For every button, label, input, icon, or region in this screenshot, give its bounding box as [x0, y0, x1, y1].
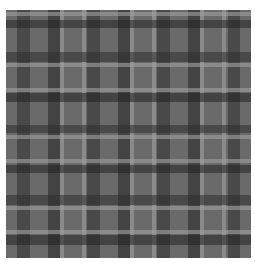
- vertical-stripe: [228, 10, 240, 258]
- horizontal-stripe: [6, 12, 251, 16]
- horizontal-stripe: [6, 230, 251, 234]
- vertical-stripe: [130, 10, 134, 258]
- horizontal-stripe: [6, 165, 251, 173]
- vertical-stripe: [17, 10, 30, 258]
- vertical-stripe: [188, 10, 200, 258]
- horizontal-stripe: [6, 235, 251, 245]
- horizontal-stripe: [6, 93, 251, 102]
- vertical-stripe: [152, 10, 156, 258]
- horizontal-stripe: [6, 195, 251, 205]
- vertical-stripe: [82, 10, 86, 258]
- horizontal-stripe: [6, 135, 251, 139]
- horizontal-stripe: [6, 52, 251, 62]
- horizontal-stripe: [6, 63, 251, 67]
- plaid-texture: [6, 10, 251, 258]
- vertical-stripe: [48, 10, 60, 258]
- vertical-stripe: [118, 10, 130, 258]
- horizontal-stripe: [6, 20, 251, 28]
- vertical-stripe: [87, 10, 100, 258]
- vertical-stripe: [60, 10, 64, 258]
- vertical-stripe: [157, 10, 170, 258]
- horizontal-stripe: [6, 206, 251, 210]
- vertical-stripe: [200, 10, 204, 258]
- horizontal-stripe: [6, 159, 251, 163]
- horizontal-stripe: [6, 125, 251, 133]
- horizontal-stripe: [6, 88, 251, 92]
- vertical-stripe: [222, 10, 226, 258]
